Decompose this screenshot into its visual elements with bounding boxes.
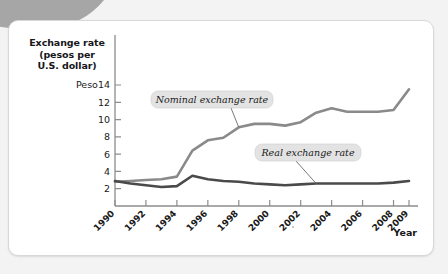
y-tick-label-12: 12: [98, 97, 110, 108]
x-tick-label-2004: 2004: [308, 208, 333, 233]
y-tick-label-8: 8: [104, 131, 110, 142]
y-tick-label-4: 4: [104, 166, 110, 177]
x-tick-label-2000: 2000: [246, 208, 271, 233]
x-tick-label-1992: 1992: [123, 208, 148, 233]
figure-container: Exchange rate (pesos per U.S. dollar) Pe…: [0, 0, 448, 274]
callout-real-exchange-rate: Real exchange rate: [255, 144, 361, 161]
chart-card: Exchange rate (pesos per U.S. dollar) Pe…: [8, 20, 434, 256]
y-tick-label-2: 2: [104, 183, 110, 194]
x-tick-label-1990: 1990: [92, 208, 117, 233]
callout-nominal-label: Nominal exchange rate: [155, 94, 269, 105]
x-tick-label-1996: 1996: [184, 208, 209, 233]
y-tick-label-6: 6: [104, 149, 110, 160]
y-tick-label-Peso14: Peso14: [76, 79, 110, 90]
series-line-real-exchange-rate: [115, 176, 409, 187]
line-chart-plot: Peso1412108642 1990199219941996199820002…: [9, 21, 433, 255]
callout-real-label: Real exchange rate: [260, 147, 354, 158]
callout-leader-real: [296, 161, 316, 184]
x-tick-group: 1990199219941996199820002002200420062008…: [92, 200, 411, 233]
x-tick-label-2002: 2002: [277, 208, 302, 233]
y-tick-label-10: 10: [98, 114, 110, 125]
x-axis-name: Year: [392, 227, 417, 238]
x-tick-label-1994: 1994: [154, 208, 179, 233]
callout-leader-nominal: [231, 108, 239, 127]
callout-nominal-exchange-rate: Nominal exchange rate: [151, 91, 273, 108]
x-tick-label-2006: 2006: [339, 208, 364, 233]
x-tick-label-1998: 1998: [215, 208, 240, 233]
y-tick-group: Peso1412108642: [76, 79, 121, 194]
stray-dot: [292, 226, 294, 228]
